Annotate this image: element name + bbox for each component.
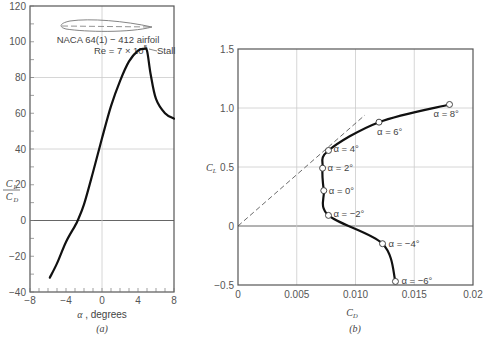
alpha-label: α = −6° — [401, 275, 432, 286]
panel-label: (b) — [349, 323, 361, 335]
y-tick-label: 1.5 — [220, 44, 234, 55]
y-axis-label: CL — [206, 162, 217, 174]
x-tick-label: −8 — [24, 295, 36, 306]
svg-text:C: C — [6, 178, 13, 189]
data-point-marker — [392, 278, 398, 284]
chart-b: −0.500.51.01.500.0050.0100.0150.02CLCD(b… — [206, 44, 483, 336]
alpha-label: α = 2° — [328, 162, 354, 173]
svg-text:D: D — [13, 196, 19, 203]
y-tick-label: −0.5 — [214, 280, 234, 291]
y-tick-label: 60 — [15, 108, 27, 119]
data-point-marker — [321, 188, 327, 194]
x-tick-label: 0.010 — [343, 289, 368, 300]
y-tick-label: 120 — [9, 1, 26, 12]
y-tick-label: 0 — [228, 221, 234, 232]
chart-a: −40−20020406080100120−8−4048CLCDα , degr… — [3, 1, 177, 336]
x-tick-label: 0.02 — [463, 289, 483, 300]
svg-text:L: L — [13, 183, 18, 190]
x-tick-label: 0 — [99, 295, 105, 306]
x-tick-label: 8 — [171, 295, 177, 306]
x-tick-label: −4 — [60, 295, 72, 306]
x-tick-label: 0.005 — [284, 289, 309, 300]
stall-pointer — [149, 49, 157, 51]
x-tick-label: 0.015 — [402, 289, 427, 300]
alpha-label: α = −2° — [333, 208, 364, 219]
data-point-marker — [325, 212, 331, 218]
stall-label: Stall — [157, 45, 175, 56]
data-point-marker — [325, 147, 331, 153]
alpha-label: α = 8° — [434, 108, 460, 119]
x-axis-label: α , degrees — [77, 309, 127, 320]
x-tick-label: 4 — [135, 295, 141, 306]
alpha-label: α = 4° — [333, 143, 359, 154]
y-tick-label: 100 — [9, 36, 26, 47]
alpha-label: α = −4° — [389, 238, 420, 249]
y-tick-label: 40 — [15, 144, 27, 155]
y-tick-label: 80 — [15, 72, 27, 83]
data-point-marker — [380, 241, 386, 247]
alpha-label: α = 6° — [377, 126, 403, 137]
panel-label: (a) — [96, 323, 108, 335]
alpha-label: α = 0° — [329, 185, 355, 196]
data-point-marker — [376, 119, 382, 125]
svg-text:C: C — [6, 191, 13, 202]
data-point-marker — [320, 165, 326, 171]
x-tick-label: 0 — [235, 289, 241, 300]
cl-cd-curve — [50, 48, 174, 277]
airfoil-icon — [61, 20, 152, 32]
figure: −40−20020406080100120−8−4048CLCDα , degr… — [0, 0, 485, 341]
y-tick-label: −20 — [9, 251, 26, 262]
data-point-marker — [447, 101, 453, 107]
y-tick-label: 0.5 — [220, 162, 234, 173]
y-tick-label: 0 — [20, 215, 26, 226]
y-tick-label: 1.0 — [220, 103, 234, 114]
x-axis-label: CD — [346, 307, 358, 319]
